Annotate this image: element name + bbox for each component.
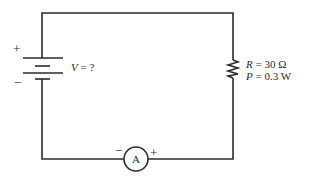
ammeter-positive-sign: + (150, 145, 157, 160)
voltage-value: = ? (78, 61, 95, 73)
resistance-value: = 30 Ω (253, 58, 287, 70)
circuit-diagram: + − V = ? R = 30 Ω P = 0.3 W A − + (0, 0, 309, 185)
right-bottom-wire (148, 78, 233, 159)
resistance-label: R = 30 Ω (245, 58, 286, 70)
ammeter: A (124, 147, 148, 171)
resistor (228, 60, 238, 78)
left-bottom-wire (42, 79, 124, 159)
battery-voltage-label: V = ? (71, 61, 94, 73)
battery-positive-sign: + (13, 41, 20, 56)
ammeter-symbol: A (132, 153, 140, 165)
battery (23, 58, 63, 79)
power-label: P = 0.3 W (245, 70, 292, 82)
power-value: = 0.3 W (253, 70, 292, 82)
battery-negative-sign: − (14, 75, 21, 90)
top-wire (42, 13, 233, 60)
ammeter-negative-sign: − (115, 143, 122, 158)
